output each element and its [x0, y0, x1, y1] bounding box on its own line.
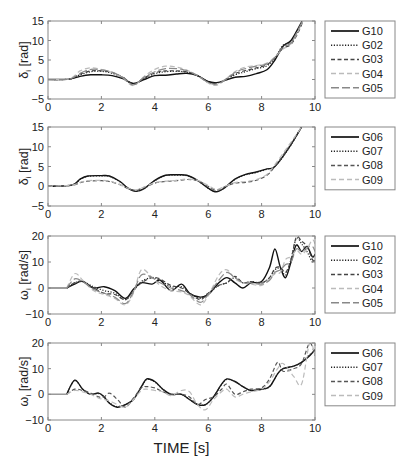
legend: G10G02G03G04G05 — [325, 236, 395, 313]
y-tick-label: 10 — [32, 35, 44, 47]
legend-label-G05: G05 — [362, 297, 383, 309]
axes-box — [48, 236, 315, 314]
x-tick-label: 6 — [205, 316, 211, 328]
x-tick-label: 8 — [259, 208, 265, 220]
x-tick-label: 4 — [152, 422, 158, 434]
legend-label-G02: G02 — [362, 39, 383, 51]
x-tick-label: 4 — [152, 316, 158, 328]
y-tick-label: 15 — [32, 121, 44, 133]
series-line-G02 — [67, 238, 315, 300]
legend-label-G03: G03 — [362, 268, 383, 280]
y-axis-label: ωi [rad/s] — [17, 250, 33, 300]
y-tick-label: 0 — [38, 180, 44, 192]
y-axis-label: δi [rad] — [17, 41, 33, 78]
legend-label-G10: G10 — [362, 25, 383, 37]
y-axis-label: δi [rad] — [17, 148, 33, 185]
x-tick-label: 8 — [259, 422, 265, 434]
axes-box — [48, 343, 315, 420]
y-tick-label: 5 — [38, 161, 44, 173]
y-tick-label: 20 — [32, 230, 44, 242]
x-tick-label: 6 — [205, 422, 211, 434]
y-tick-label: 10 — [32, 141, 44, 153]
legend-label-G09: G09 — [362, 390, 383, 402]
x-tick-label: 6 — [205, 101, 211, 113]
legend-label-G04: G04 — [362, 68, 383, 80]
legend: G10G02G03G04G05 — [325, 21, 395, 98]
legend-label-G03: G03 — [362, 53, 383, 65]
series-group — [48, 342, 315, 410]
x-tick-label: 8 — [259, 316, 265, 328]
y-tick-label: 10 — [32, 363, 44, 375]
chart-panel-3: 0246810−1001020ωi [rad/s]G10G02G03G04G05 — [17, 230, 395, 328]
y-tick-label: −10 — [25, 414, 44, 426]
legend-label-G07: G07 — [362, 361, 383, 373]
y-tick-label: 5 — [38, 54, 44, 66]
chart-panel-4: 0246810−1001020ωi [rad/s]TIME [s]G06G07G… — [17, 337, 395, 456]
chart-panel-1: 0246810−5051015δi [rad]G10G02G03G04G05 — [17, 15, 395, 113]
x-tick-label: 2 — [98, 101, 104, 113]
x-tick-label: 0 — [45, 208, 51, 220]
y-tick-label: −5 — [31, 200, 44, 212]
series-group — [48, 127, 302, 192]
multi-panel-line-chart: 0246810−5051015δi [rad]G10G02G03G04G0502… — [0, 0, 402, 468]
x-axis-label: TIME [s] — [154, 439, 210, 456]
x-tick-label: 6 — [205, 208, 211, 220]
series-group — [48, 17, 304, 86]
x-tick-label: 10 — [309, 422, 321, 434]
x-tick-label: 0 — [45, 316, 51, 328]
series-line-G10 — [67, 245, 315, 299]
legend: G06G07G08G09 — [325, 343, 395, 406]
x-tick-label: 10 — [309, 316, 321, 328]
series-line-G10 — [48, 17, 304, 83]
legend-label-G06: G06 — [362, 347, 383, 359]
y-tick-label: 0 — [38, 74, 44, 86]
series-line-G08 — [67, 343, 315, 407]
y-tick-label: 15 — [32, 15, 44, 27]
series-line-G06 — [48, 127, 302, 192]
x-tick-label: 0 — [45, 101, 51, 113]
legend-label-G08: G08 — [362, 159, 383, 171]
y-tick-label: 0 — [38, 388, 44, 400]
y-axis-label: ωi [rad/s] — [17, 357, 33, 407]
series-line-G09 — [48, 127, 302, 190]
legend-label-G08: G08 — [362, 375, 383, 387]
y-tick-label: 0 — [38, 282, 44, 294]
x-tick-label: 2 — [98, 316, 104, 328]
x-tick-label: 0 — [45, 422, 51, 434]
x-tick-label: 8 — [259, 101, 265, 113]
x-tick-label: 4 — [152, 101, 158, 113]
y-tick-label: −5 — [31, 93, 44, 105]
legend-label-G06: G06 — [362, 131, 383, 143]
x-tick-label: 10 — [309, 208, 321, 220]
series-group — [48, 236, 315, 305]
chart-panel-2: 0246810−5051015δi [rad]G06G07G08G09 — [17, 121, 395, 220]
x-tick-label: 4 — [152, 208, 158, 220]
x-tick-label: 10 — [309, 101, 321, 113]
y-tick-label: 20 — [32, 337, 44, 349]
x-tick-label: 2 — [98, 422, 104, 434]
legend-label-G02: G02 — [362, 254, 383, 266]
legend-label-G07: G07 — [362, 145, 383, 157]
legend-label-G04: G04 — [362, 283, 383, 295]
legend-label-G09: G09 — [362, 174, 383, 186]
x-tick-label: 2 — [98, 208, 104, 220]
legend: G06G07G08G09 — [325, 127, 395, 190]
series-line-G07 — [48, 127, 302, 191]
y-tick-label: −10 — [25, 308, 44, 320]
legend-label-G10: G10 — [362, 240, 383, 252]
legend-label-G05: G05 — [362, 82, 383, 94]
y-tick-label: 10 — [32, 256, 44, 268]
